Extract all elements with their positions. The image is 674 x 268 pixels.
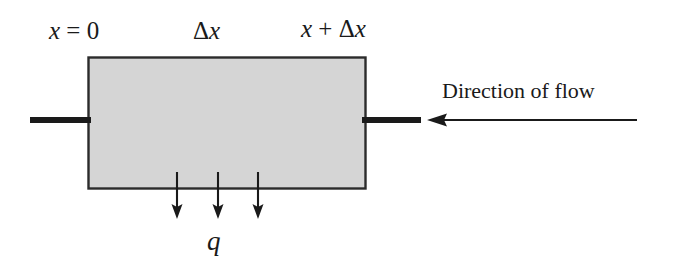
figure-canvas: x = 0 Δx x + Δx q Direction of flow [0, 0, 674, 268]
label-left-boundary-variable: x [49, 17, 60, 44]
label-right-boundary-variable-2: x [355, 15, 366, 42]
label-right-boundary-variable: x [301, 15, 312, 42]
label-left-boundary-operator: = [60, 17, 87, 44]
label-element-width-variable: x [209, 17, 220, 44]
label-left-boundary: x = 0 [49, 18, 99, 43]
label-right-boundary-operator: + [312, 15, 339, 42]
direction-of-flow-arrowhead [427, 114, 447, 127]
label-right-boundary-delta: Δ [339, 15, 355, 42]
label-direction-of-flow: Direction of flow [442, 80, 595, 102]
label-element-width-delta: Δ [193, 17, 209, 44]
label-left-boundary-value: 0 [87, 17, 100, 44]
label-element-width: Δx [193, 18, 220, 43]
label-sink-term: q [207, 228, 221, 255]
label-right-boundary: x + Δx [301, 16, 366, 41]
control-volume-box [89, 58, 366, 189]
